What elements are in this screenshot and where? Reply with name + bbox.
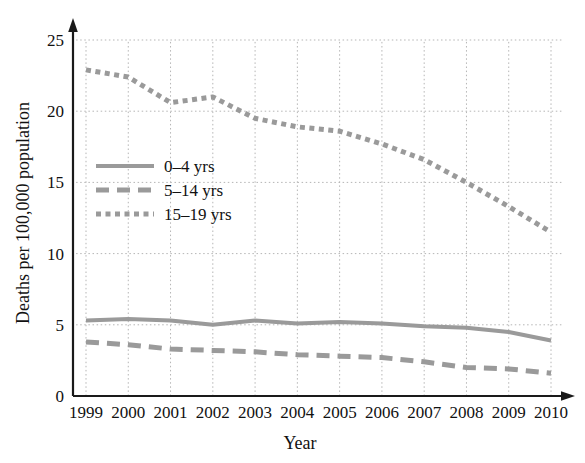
legend-label-2: 5–14 yrs [164, 181, 223, 200]
legend-label-3: 15–19 yrs [164, 205, 232, 224]
x-tick-label: 1999 [69, 403, 103, 422]
x-tick-label: 2004 [280, 403, 315, 422]
line-chart-figure: 0510152025 19992000200120022003200420052… [0, 0, 585, 463]
x-tick-label: 2003 [238, 403, 272, 422]
y-tick-label: 20 [47, 102, 64, 121]
chart-container: 0510152025 19992000200120022003200420052… [0, 0, 585, 463]
x-tick-label: 2007 [407, 403, 442, 422]
legend-label-1: 0–4 yrs [164, 157, 215, 176]
x-tick-label: 2001 [154, 403, 188, 422]
x-tick-label: 2006 [365, 403, 399, 422]
y-tick-label: 25 [47, 31, 64, 50]
y-tick-label: 15 [47, 173, 64, 192]
x-tick-label: 2005 [323, 403, 357, 422]
y-tick-label: 0 [56, 387, 65, 406]
y-tick-label: 5 [56, 316, 65, 335]
x-tick-label: 2000 [111, 403, 145, 422]
x-tick-label: 2009 [492, 403, 526, 422]
x-tick-label: 2002 [196, 403, 230, 422]
y-tick-label: 10 [47, 245, 64, 264]
x-axis-title: Year [283, 433, 316, 453]
x-tick-label: 2010 [534, 403, 568, 422]
x-tick-label: 2008 [449, 403, 483, 422]
y-axis-title: Deaths per 100,000 population [13, 102, 33, 324]
